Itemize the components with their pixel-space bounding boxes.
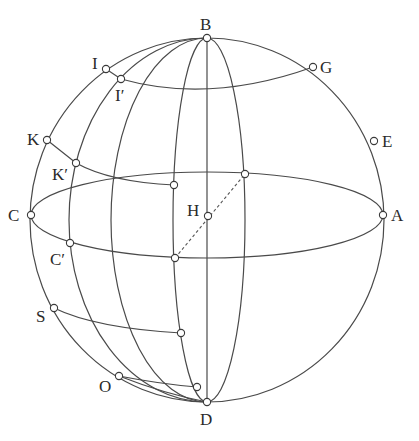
point-c-prime <box>66 239 73 246</box>
label-a: A <box>391 206 404 225</box>
point-front-equator <box>171 254 178 261</box>
point-a <box>379 211 386 218</box>
label-k-prime: K′ <box>52 165 68 184</box>
point-b <box>203 34 210 41</box>
label-i-prime: I′ <box>115 86 124 105</box>
sphere-diagram: B D A C E G H I I′ K K′ C′ S O <box>0 0 419 441</box>
label-c: C <box>8 206 19 225</box>
point-s-end <box>177 329 184 336</box>
point-d <box>203 398 210 405</box>
label-e: E <box>382 132 392 151</box>
point-o <box>115 372 122 379</box>
point-h <box>204 212 211 219</box>
meridian-3-right <box>207 38 245 402</box>
meridian-3-left <box>173 38 207 402</box>
point-back-equator <box>241 170 248 177</box>
point-k-prime <box>72 159 79 166</box>
point-k <box>43 136 50 143</box>
point-i-prime <box>117 75 124 82</box>
label-k: K <box>27 130 40 149</box>
meridian-2 <box>111 38 207 402</box>
label-s: S <box>36 307 45 326</box>
point-i <box>102 65 109 72</box>
point-o-end <box>193 383 200 390</box>
label-c-prime: C′ <box>50 250 65 269</box>
parallel-s <box>54 308 181 333</box>
label-b: B <box>200 15 211 34</box>
point-s <box>50 304 57 311</box>
label-o: O <box>99 377 111 396</box>
label-g: G <box>320 58 332 77</box>
point-c <box>27 211 34 218</box>
label-d: D <box>200 410 212 429</box>
point-g <box>309 63 316 70</box>
label-h: H <box>187 201 199 220</box>
point-k-end <box>170 181 177 188</box>
parallel-top <box>121 67 313 89</box>
line-o-1 <box>119 376 197 387</box>
point-e <box>370 137 377 144</box>
label-i: I <box>92 54 98 73</box>
